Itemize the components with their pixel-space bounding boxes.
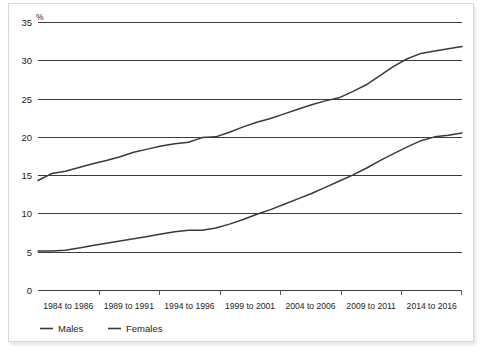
x-tick-label-2: 1994 to 1996 bbox=[164, 301, 214, 311]
y-tick-label-20: 20 bbox=[21, 132, 32, 143]
x-tick-label-4: 2004 to 2006 bbox=[285, 301, 335, 311]
y-axis-unit-label: % bbox=[36, 12, 44, 22]
x-tick-label-0: 1984 to 1986 bbox=[43, 301, 93, 311]
chart-legend: MalesFemales bbox=[40, 323, 163, 334]
x-axis-tick-labels: 1984 to 19861989 to 19911994 to 19961999… bbox=[43, 301, 457, 311]
x-tick-label-6: 2014 to 2016 bbox=[407, 301, 457, 311]
gridlines bbox=[38, 23, 462, 291]
series-line-females bbox=[38, 133, 462, 251]
chart-figure: 05101520253035 % 1984 to 19861989 to 199… bbox=[0, 0, 490, 355]
x-tick-label-1: 1989 to 1991 bbox=[104, 301, 154, 311]
x-tick-label-3: 1999 to 2001 bbox=[225, 301, 275, 311]
series-line-males bbox=[38, 47, 462, 181]
y-axis-tick-labels: 05101520253035 bbox=[21, 17, 32, 296]
x-tick-label-5: 2009 to 2011 bbox=[346, 301, 396, 311]
legend-label-males[interactable]: Males bbox=[58, 323, 84, 334]
y-tick-label-35: 35 bbox=[21, 17, 32, 28]
y-tick-label-30: 30 bbox=[21, 55, 32, 66]
y-tick-label-15: 15 bbox=[21, 170, 32, 181]
y-tick-label-10: 10 bbox=[21, 208, 32, 219]
data-series bbox=[38, 47, 462, 251]
y-tick-label-0: 0 bbox=[27, 285, 32, 296]
y-tick-label-5: 5 bbox=[27, 247, 32, 258]
y-tick-label-25: 25 bbox=[21, 94, 32, 105]
line-chart: 05101520253035 % 1984 to 19861989 to 199… bbox=[0, 0, 490, 355]
legend-label-females[interactable]: Females bbox=[126, 323, 163, 334]
